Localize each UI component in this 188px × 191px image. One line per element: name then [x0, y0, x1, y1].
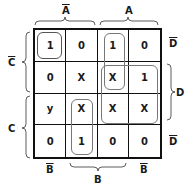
label-b-bar-left: B	[46, 165, 54, 175]
label-d: D	[176, 88, 184, 98]
label-b: B	[94, 175, 102, 185]
cell-r0-c1: 0	[66, 30, 97, 62]
cell-r3-c0: 0	[35, 125, 66, 157]
label-c-bar: C	[8, 58, 15, 68]
label-a: A	[125, 6, 133, 16]
cell-r0-c3: 0	[129, 30, 160, 62]
label-a-bar: A	[62, 6, 70, 16]
label-d-bar-top: D	[169, 39, 177, 49]
karnaugh-map: A A C C D D D B B B 1 0 1 0 0 X X 1 y X …	[0, 0, 188, 191]
loop-quad-cols2-3-rows1-2	[101, 65, 158, 124]
cell-r3-c3: 0	[129, 125, 160, 157]
cell-r1-c1: X	[66, 62, 97, 94]
label-c: C	[8, 124, 15, 134]
label-b-bar-right: B	[140, 165, 148, 175]
loop-pair-col1-rows2-3	[71, 99, 93, 155]
label-d-bar-bottom: D	[169, 137, 177, 147]
loop-single-top-left	[37, 32, 62, 59]
cell-r1-c0: 0	[35, 62, 66, 94]
cell-r3-c2: 0	[98, 125, 129, 157]
cell-r2-c0: y	[35, 94, 66, 126]
